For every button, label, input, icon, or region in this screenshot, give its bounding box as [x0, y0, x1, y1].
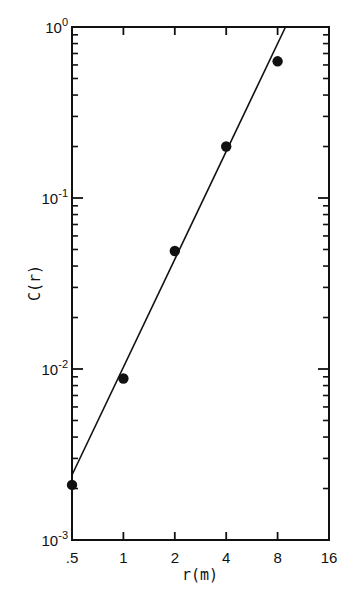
data-point [272, 56, 282, 66]
plot-frame [72, 27, 329, 540]
correlation-plot: .5124816 10010-110-210-3 r(m) C(r) [0, 0, 353, 590]
y-axis-title: C(r) [26, 265, 44, 301]
x-tick-label: 2 [171, 549, 179, 566]
y-tick-labels: 10010-110-210-3 [42, 16, 68, 549]
y-tick-label: 10-3 [42, 529, 68, 549]
y-tick-label: 10-2 [42, 358, 68, 378]
x-tick-label: 16 [321, 549, 338, 566]
x-tick-label: 4 [222, 549, 230, 566]
y-tick-label: 100 [45, 16, 68, 36]
data-point [67, 480, 77, 490]
y-tick-label: 10-1 [42, 187, 68, 207]
data-point [221, 141, 231, 151]
x-axis-title: r(m) [182, 566, 218, 584]
x-tick-label: 1 [119, 549, 127, 566]
y-minor-ticks [72, 35, 329, 489]
major-ticks [72, 27, 329, 540]
x-tick-label: .5 [66, 549, 79, 566]
data-point [170, 246, 180, 256]
data-points [67, 56, 283, 490]
x-tick-label: 8 [273, 549, 281, 566]
data-point [118, 373, 128, 383]
x-tick-labels: .5124816 [66, 549, 338, 566]
